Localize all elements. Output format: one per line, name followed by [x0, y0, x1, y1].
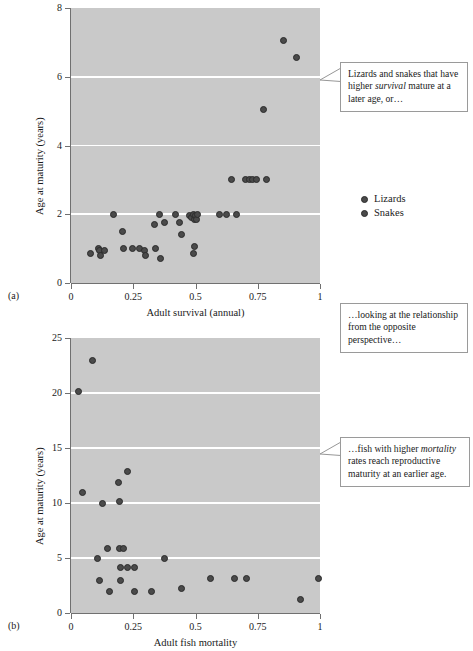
y-tick-label: 0: [39, 278, 62, 288]
data-point: [87, 250, 94, 257]
y-tick: [65, 146, 70, 147]
y-axis-line: [70, 338, 71, 613]
x-tick: [320, 284, 321, 289]
data-point: [172, 211, 179, 218]
y-tick-label: 10: [39, 498, 62, 508]
data-point: [156, 211, 163, 218]
data-point: [228, 176, 235, 183]
data-point: [115, 479, 122, 486]
legend-label-snakes: Snakes: [374, 206, 404, 220]
data-point: [216, 211, 223, 218]
data-point: [233, 211, 240, 218]
data-point: [120, 245, 127, 252]
data-point: [89, 357, 96, 364]
callout-3-text-part2: rates reach reproductive maturity at an …: [348, 455, 446, 478]
callout-perspective: …looking at the relationship from the op…: [340, 303, 468, 353]
data-point: [110, 211, 117, 218]
gridline: [71, 145, 320, 147]
data-point: [293, 54, 300, 61]
y-tick-label: 4: [39, 141, 62, 151]
data-point: [142, 252, 149, 259]
panel-b-y-axis-title: Age at maturity (years): [34, 447, 45, 545]
x-tick: [71, 284, 72, 289]
x-tick: [196, 614, 197, 619]
scatter-plot-b: [71, 338, 320, 613]
y-tick-label: 25: [39, 333, 62, 343]
panel-a: (a) Age at maturity (years) Adult surviv…: [0, 0, 473, 325]
y-tick: [65, 558, 70, 559]
x-tick-label: 0.5: [189, 292, 202, 302]
x-tick: [320, 614, 321, 619]
legend-item-snakes: Snakes: [361, 206, 406, 220]
snakes-marker-icon: [361, 210, 368, 217]
y-tick-label: 5: [39, 553, 62, 563]
data-point: [124, 468, 131, 475]
y-tick-label: 6: [39, 72, 62, 82]
x-tick-label: 0.25: [125, 622, 143, 632]
data-point: [263, 176, 270, 183]
data-point: [161, 219, 168, 226]
x-tick: [196, 284, 197, 289]
data-point: [151, 221, 158, 228]
data-point: [260, 106, 267, 113]
data-point: [131, 564, 138, 571]
data-point: [190, 250, 197, 257]
data-point: [178, 585, 185, 592]
x-tick-label: 0: [69, 622, 74, 632]
y-tick-label: 0: [39, 608, 62, 618]
panel-b-x-axis-title: Adult fish mortality: [71, 637, 320, 648]
data-point: [124, 564, 131, 571]
y-tick-label: 15: [39, 443, 62, 453]
y-tick: [65, 214, 70, 215]
y-tick-label: 20: [39, 388, 62, 398]
data-point: [161, 555, 168, 562]
data-point: [253, 176, 260, 183]
gridline: [71, 557, 320, 559]
data-point: [178, 231, 185, 238]
panel-b: (b) Age at maturity (years) Adult fish m…: [0, 326, 473, 651]
x-tick-label: 0: [69, 292, 74, 302]
callout-mortality: …fish with higher mortality rates reach …: [340, 437, 470, 487]
data-point: [148, 588, 155, 595]
x-tick: [133, 284, 134, 289]
panel-a-x-axis-title: Adult survival (annual): [71, 307, 320, 318]
data-point: [75, 388, 82, 395]
x-tick-label: 0.25: [125, 292, 143, 302]
x-tick: [258, 614, 259, 619]
lizards-marker-icon: [361, 196, 368, 203]
y-tick: [65, 613, 70, 614]
y-tick: [65, 77, 70, 78]
callout-3-text-part1: …fish with higher: [348, 443, 421, 454]
callout-2-text: …looking at the relationship from the op…: [348, 309, 458, 345]
y-axis-line: [70, 8, 71, 283]
data-point: [243, 575, 250, 582]
x-tick-label: 0.75: [249, 622, 267, 632]
callout-1-emphasis: survival: [375, 80, 406, 91]
x-tick: [258, 284, 259, 289]
data-point: [116, 498, 123, 505]
callout-3-emphasis: mortality: [421, 443, 456, 454]
scatter-plot-a: [71, 8, 320, 283]
data-point: [231, 575, 238, 582]
data-point: [106, 588, 113, 595]
x-tick-label: 1: [318, 622, 323, 632]
x-tick: [71, 614, 72, 619]
data-point: [131, 588, 138, 595]
data-point: [129, 245, 136, 252]
data-point: [99, 500, 106, 507]
data-point: [79, 489, 86, 496]
data-point: [157, 255, 164, 262]
legend-item-lizards: Lizards: [361, 192, 406, 206]
data-point: [315, 575, 322, 582]
data-point: [207, 575, 214, 582]
gridline: [71, 392, 320, 394]
panel-a-tag: (a): [8, 290, 19, 301]
data-point: [117, 577, 124, 584]
data-point: [119, 228, 126, 235]
y-tick-label: 2: [39, 209, 62, 219]
y-tick-label: 8: [39, 3, 62, 13]
y-tick: [65, 503, 70, 504]
y-tick: [65, 393, 70, 394]
data-point: [120, 545, 127, 552]
gridline: [71, 447, 320, 449]
